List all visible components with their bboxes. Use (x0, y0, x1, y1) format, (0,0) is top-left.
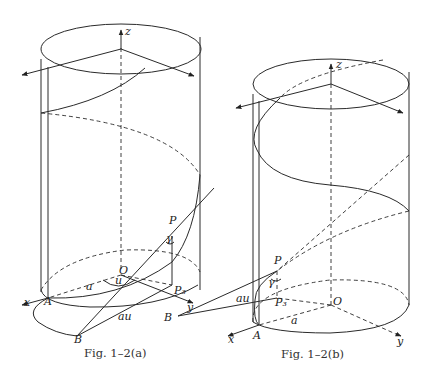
radius-a-line (48, 275, 121, 298)
label-P-b: P (273, 254, 282, 267)
label-au-b: au (236, 292, 250, 305)
a-to-b-curve-a (33, 298, 77, 336)
label-gamma-b: γ (268, 276, 275, 289)
label-x-a: x (24, 296, 31, 309)
helix-back-lower-b (277, 211, 409, 271)
top-y-arrow-a (121, 49, 194, 76)
label-au-a: au (118, 310, 132, 323)
label-y-b: y (396, 335, 404, 348)
label-x-b: x (228, 333, 235, 346)
tangent-front-b (178, 271, 277, 316)
label-P-a: P (168, 214, 177, 227)
label-O-b: O (333, 295, 342, 308)
helix-back-a (41, 113, 200, 175)
label-u-a: u (115, 274, 122, 287)
tangent-line-a (77, 188, 214, 336)
helix-front-a (48, 175, 200, 298)
label-P3-a: P₃ (173, 284, 186, 297)
label-a-a: a (86, 280, 93, 293)
cylinder-bottom-front-b (253, 305, 409, 333)
figure-a: z x y A B O P P₃ a u au γ Fig. 1–2(a) (22, 24, 214, 360)
label-z-b: z (335, 58, 342, 71)
top-x-arrow-a (22, 49, 121, 75)
label-A-a: A (43, 295, 52, 308)
helix-figures: z x y A B O P P₃ a u au γ Fig. 1–2(a) (0, 0, 430, 383)
helix-upper-a (41, 68, 145, 113)
y-axis-dashed-b (331, 305, 398, 335)
label-P3-b: P₃ (274, 296, 287, 309)
label-B-a: B (73, 333, 82, 346)
caption-a: Fig. 1–2(a) (84, 346, 147, 360)
caption-b: Fig. 1–2(b) (281, 347, 344, 361)
label-A-b: A (252, 329, 261, 342)
label-gamma-a: γ (166, 232, 173, 245)
tangent-back-b (277, 155, 409, 271)
diagram-canvas: z x y A B O P P₃ a u au γ Fig. 1–2(a) (0, 0, 430, 383)
label-a-b: a (291, 314, 298, 327)
label-B-b: B (163, 311, 172, 324)
label-z-a: z (124, 25, 131, 38)
helix-front-b (254, 98, 409, 211)
top-x-arrow-b (236, 84, 331, 108)
